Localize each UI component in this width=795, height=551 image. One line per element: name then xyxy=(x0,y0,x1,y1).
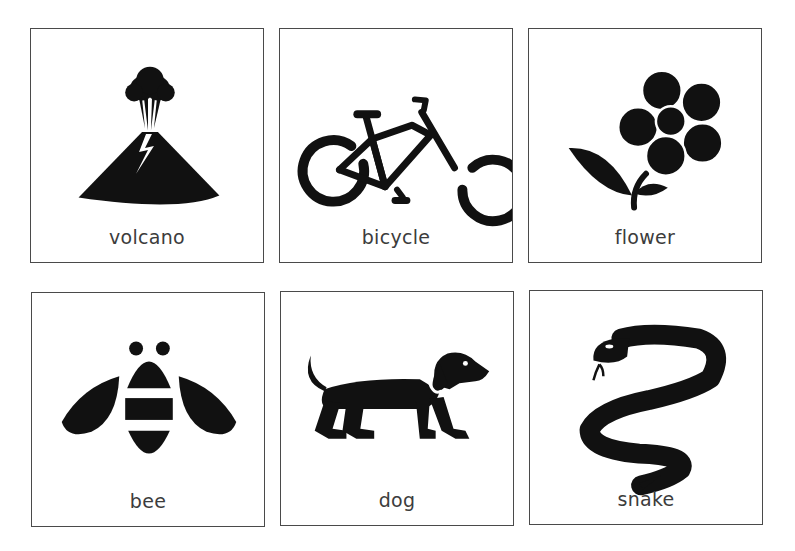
card-label: snake xyxy=(530,488,762,510)
card-dog[interactable]: dog xyxy=(280,291,514,526)
card-label: dog xyxy=(281,489,513,511)
card-label: bee xyxy=(32,490,264,512)
card-bee[interactable]: bee xyxy=(31,292,265,527)
card-flower[interactable]: flower xyxy=(528,28,762,263)
card-label: volcano xyxy=(31,226,263,248)
card-label: flower xyxy=(529,226,761,248)
card-snake[interactable]: snake xyxy=(529,290,763,525)
card-label: bicycle xyxy=(280,226,512,248)
card-volcano[interactable]: volcano xyxy=(30,28,264,263)
card-bicycle[interactable]: bicycle xyxy=(279,28,513,263)
